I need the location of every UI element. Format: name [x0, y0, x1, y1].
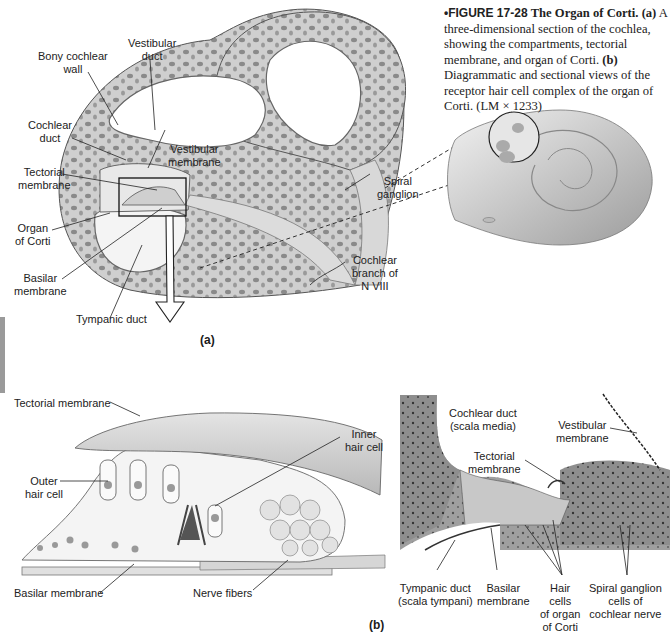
label-line: Hair	[540, 582, 580, 595]
label-line: membrane	[468, 463, 521, 476]
label-line: Vestibular	[128, 37, 176, 50]
label-line: membrane	[556, 432, 609, 445]
label-nerve-fibers: Nerve fibers	[193, 587, 252, 600]
label-line: (scala tympani)	[398, 595, 473, 608]
label-line: Vestibular	[168, 143, 221, 156]
label-line: ganglion	[377, 188, 419, 201]
label-cochlear-duct-scala-media: Cochlear duct (scala media)	[449, 407, 517, 433]
label-line: Tympanic duct	[398, 582, 473, 595]
label-cochlear-branch-n-viii: Cochlear branch of N VIII	[352, 254, 398, 293]
cochlea-shell-illustration	[448, 110, 653, 245]
label-tympanic-duct-scala-tympani: Tympanic duct (scala tympani)	[398, 582, 473, 608]
label-spiral-ganglion: Spiral ganglion	[377, 175, 419, 201]
label-bony-cochlear-wall: Bony cochlear wall	[38, 50, 108, 76]
label-vestibular-membrane-b: Vestibular membrane	[556, 419, 609, 445]
label-line: Cochlear	[28, 119, 72, 132]
label-line: cochlear nerve	[589, 608, 662, 621]
organ-of-corti-diagram	[22, 402, 385, 593]
figure-caption: •FIGURE 17-28 The Organ of Corti. (a) A …	[444, 6, 672, 115]
label-line: N VIII	[352, 280, 398, 293]
label-tectorial-membrane-b: Tectorial membrane	[14, 397, 111, 410]
caption-part-b-marker: (b)	[602, 53, 617, 67]
label-line: (scala media)	[449, 420, 517, 433]
label-tympanic-duct-a: Tympanic duct	[76, 313, 147, 326]
label-line: Tympanic duct	[76, 313, 147, 326]
label-line: of organ	[540, 608, 580, 621]
label-line: Tectorial	[18, 166, 71, 179]
histology-micrograph	[400, 394, 670, 575]
figure-title: The Organ of Corti.	[531, 6, 639, 20]
label-basilar-membrane-micrograph: Basilar membrane	[477, 582, 530, 608]
label-line: Bony cochlear	[38, 50, 108, 63]
label-basilar-membrane-a: Basilar membrane	[14, 272, 67, 298]
label-line: duct	[28, 132, 72, 145]
label-line: of Corti	[15, 235, 50, 248]
label-line: Tectorial	[468, 450, 521, 463]
label-line: Inner	[345, 428, 383, 441]
label-line: wall	[38, 63, 108, 76]
label-line: Cochlear	[352, 254, 398, 267]
label-tectorial-membrane-a: Tectorial membrane	[18, 166, 71, 192]
label-cochlear-duct: Cochlear duct	[28, 119, 72, 145]
label-line: Basilar	[477, 582, 530, 595]
label-line: membrane	[168, 156, 221, 169]
label-vestibular-duct: Vestibular duct	[128, 37, 176, 63]
label-line: Spiral ganglion	[589, 582, 662, 595]
label-line: duct	[128, 50, 176, 63]
label-organ-of-corti: Organ of Corti	[15, 222, 50, 248]
label-line: Spiral	[377, 175, 419, 188]
label-line: hair cell	[25, 488, 63, 501]
label-tectorial-membrane-micrograph: Tectorial membrane	[468, 450, 521, 476]
panel-a-label: (a)	[200, 333, 215, 347]
cochlea-section-illustration	[52, 9, 512, 322]
label-line: Basilar	[14, 272, 67, 285]
label-line: hair cell	[345, 441, 383, 454]
label-basilar-membrane-b: Basilar membrane	[14, 587, 103, 600]
label-line: Vestibular	[556, 419, 609, 432]
label-vestibular-membrane: Vestibular membrane	[168, 143, 221, 169]
label-inner-hair-cell: Inner hair cell	[345, 428, 383, 454]
label-line: Organ	[15, 222, 50, 235]
label-line: of Corti	[540, 621, 580, 634]
label-line: Outer	[25, 475, 63, 488]
caption-part-b-text: Diagrammatic and sectional views of the …	[444, 68, 653, 113]
label-line: branch of	[352, 267, 398, 280]
page-edge-tab	[0, 317, 5, 393]
label-line: membrane	[18, 179, 71, 192]
label-line: cells	[540, 595, 580, 608]
label-outer-hair-cell: Outer hair cell	[25, 475, 63, 501]
label-spiral-ganglion-cells: Spiral ganglion cells of cochlear nerve	[589, 582, 662, 621]
label-hair-cells-organ-corti: Hair cells of organ of Corti	[540, 582, 580, 634]
panel-b-label: (b)	[369, 618, 384, 632]
caption-part-a-marker: (a)	[642, 6, 657, 20]
label-line: membrane	[477, 595, 530, 608]
figure-number: •FIGURE 17-28	[444, 6, 528, 20]
label-line: Cochlear duct	[449, 407, 517, 420]
label-line: membrane	[14, 285, 67, 298]
label-line: cells of	[589, 595, 662, 608]
